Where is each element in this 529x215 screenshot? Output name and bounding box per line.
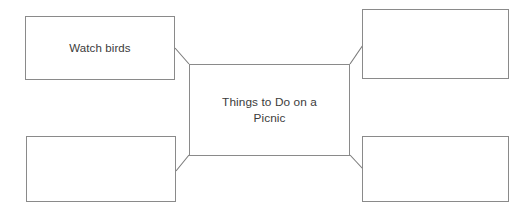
- node-box-top-left[interactable]: Watch birds: [25, 16, 175, 80]
- node-box-top-right[interactable]: [362, 9, 509, 79]
- node-label-top-left: Watch birds: [63, 41, 136, 56]
- connector-center-to-top-left: [175, 48, 189, 64]
- node-box-center[interactable]: Things to Do on a Picnic: [189, 64, 350, 156]
- node-box-bottom-right[interactable]: [362, 136, 509, 202]
- connector-center-to-bottom-left: [176, 155, 189, 171]
- concept-map-diagram: Watch birds Things to Do on a Picnic: [0, 0, 529, 215]
- node-box-bottom-left[interactable]: [26, 136, 176, 202]
- node-label-center: Things to Do on a Picnic: [216, 94, 323, 126]
